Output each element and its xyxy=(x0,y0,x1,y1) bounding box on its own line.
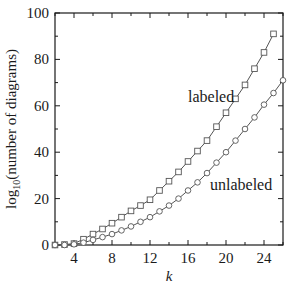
series-line xyxy=(55,80,283,245)
circle-marker xyxy=(128,224,134,230)
circle-marker xyxy=(176,196,182,202)
circle-marker xyxy=(119,228,125,234)
square-marker xyxy=(252,66,258,72)
square-marker xyxy=(261,50,267,56)
chart: 4812162024020406080100 labeled unlabeled… xyxy=(0,0,287,287)
series-layer xyxy=(52,31,286,248)
square-marker xyxy=(147,197,153,203)
y-tick-label: 80 xyxy=(34,51,49,67)
plot-frame xyxy=(55,13,283,245)
circle-marker xyxy=(261,102,267,108)
square-marker xyxy=(271,31,277,37)
y-tick-label: 60 xyxy=(34,98,49,114)
y-tick-label: 20 xyxy=(34,191,49,207)
circle-marker xyxy=(100,234,106,240)
circle-marker xyxy=(242,126,248,132)
square-marker xyxy=(195,148,201,154)
y-axis-title: log10(number of diagrams) xyxy=(3,49,22,209)
square-marker xyxy=(242,82,248,88)
axes: 4812162024020406080100 xyxy=(27,5,284,266)
circle-marker xyxy=(223,149,229,155)
series-line xyxy=(55,34,274,245)
square-marker xyxy=(119,214,125,220)
square-marker xyxy=(185,159,191,165)
circle-marker xyxy=(166,203,172,209)
circle-marker xyxy=(138,219,144,225)
circle-marker xyxy=(195,180,201,186)
series-labeled xyxy=(52,31,276,248)
square-marker xyxy=(157,188,163,194)
x-tick-label: 12 xyxy=(143,250,158,266)
series-unlabeled xyxy=(52,77,286,247)
circle-marker xyxy=(204,170,210,176)
circle-marker xyxy=(157,209,163,215)
x-tick-label: 8 xyxy=(108,250,116,266)
square-marker xyxy=(109,220,115,226)
y-tick-label: 100 xyxy=(27,5,50,21)
circle-marker xyxy=(52,242,58,248)
x-tick-label: 24 xyxy=(257,250,273,266)
circle-marker xyxy=(233,138,239,144)
circle-marker xyxy=(185,188,191,194)
circle-marker xyxy=(252,115,258,121)
circle-marker xyxy=(271,90,277,96)
circle-marker xyxy=(280,77,286,83)
circle-marker xyxy=(109,231,115,237)
annotation-unlabeled: unlabeled xyxy=(210,176,272,193)
circle-marker xyxy=(90,237,96,243)
y-axis-title-suffix: (number of diagrams) xyxy=(3,49,20,180)
circle-marker xyxy=(81,240,87,246)
y-tick-label: 0 xyxy=(42,237,50,253)
x-tick-label: 16 xyxy=(181,250,197,266)
x-tick-label: 20 xyxy=(219,250,234,266)
y-axis-title-subscript: 10 xyxy=(11,180,22,190)
square-marker xyxy=(128,208,134,214)
annotation-labeled: labeled xyxy=(188,88,234,105)
square-marker xyxy=(100,226,106,232)
square-marker xyxy=(166,178,172,184)
circle-marker xyxy=(62,242,68,248)
y-axis-title-prefix: log xyxy=(3,189,19,209)
square-marker xyxy=(214,124,220,130)
square-marker xyxy=(90,231,96,237)
circle-marker xyxy=(214,160,220,166)
x-axis-title: k xyxy=(166,268,173,284)
square-marker xyxy=(176,169,182,175)
square-marker xyxy=(223,110,229,116)
square-marker xyxy=(138,203,144,209)
circle-marker xyxy=(147,214,153,220)
square-marker xyxy=(204,138,210,144)
y-tick-label: 40 xyxy=(34,144,49,160)
circle-marker xyxy=(71,242,77,248)
x-tick-label: 4 xyxy=(70,250,78,266)
